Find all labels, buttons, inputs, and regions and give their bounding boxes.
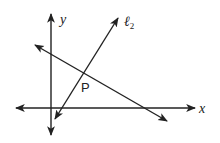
coordinate-diagram: y x ℓ2 P [0, 0, 220, 143]
line-l1 [35, 45, 167, 121]
line-l2 [55, 18, 118, 119]
line-l2-label: ℓ2 [124, 14, 134, 31]
x-axis-label: x [198, 101, 206, 116]
point-p-label: P [81, 80, 90, 95]
line-l2-label-subscript: 2 [130, 21, 135, 31]
y-axis-label: y [58, 12, 67, 27]
